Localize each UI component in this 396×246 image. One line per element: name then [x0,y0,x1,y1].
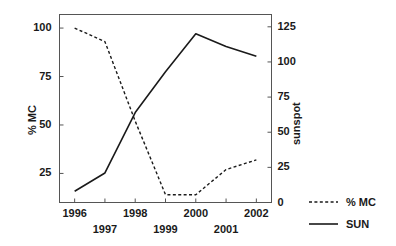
y2-tick-label: 75 [278,90,290,102]
y-tick-label: 100 [0,21,52,33]
x-tick-label: 1997 [90,223,120,235]
y-tick-label: 75 [0,70,52,82]
y-axis-title: % MC [26,105,38,135]
y2-tick-label: 25 [278,160,290,172]
x-tick-label: 2000 [181,207,211,219]
legend-label-mc: % MC [346,196,376,208]
x-tick-label: 1998 [120,207,150,219]
series-line-mc [75,28,257,195]
x-tick-label: 2002 [241,207,271,219]
y2-axis-title: sunspot [290,102,302,145]
chart-figure: 25 50 75 100 0 25 50 75 100 125 1996 199… [0,0,396,246]
y-tick-label: 25 [0,166,52,178]
y2-tick-label: 125 [278,20,296,32]
y2-tick-label: 50 [278,125,290,137]
legend-label-sun: SUN [346,218,369,230]
x-tick-label: 1996 [60,207,90,219]
x-tick-label: 2001 [211,223,241,235]
series-line-sun [75,34,257,191]
x-tick-label: 1999 [151,223,181,235]
y2-tick-label: 0 [278,196,284,208]
axis-ticks [60,27,272,203]
plot-frame [60,15,272,203]
y2-tick-label: 100 [278,55,296,67]
